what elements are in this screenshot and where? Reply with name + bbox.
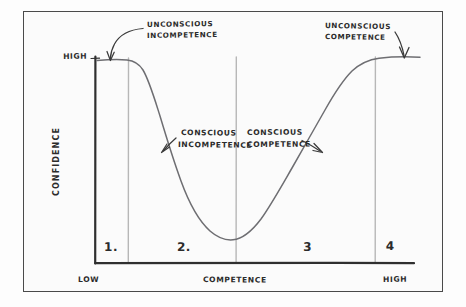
x-axis-label: COMPETENCE [203, 275, 267, 285]
conscious-incompetence-arrow [162, 138, 177, 153]
stage-number-3: 3 [303, 240, 312, 255]
x-axis-high-label: HIGH [383, 275, 407, 285]
diagram-canvas [0, 0, 466, 307]
unconscious-competence-arrow [395, 32, 409, 58]
stage-number-4: 4 [386, 239, 395, 254]
annotation-conscious-competence-line1: CONSCIOUS [247, 128, 303, 138]
annotation-unconscious-competence-line1: UNCONSCIOUS [325, 22, 391, 32]
annotation-unconscious-competence-line2: COMPETENCE [325, 33, 386, 43]
stage-number-2: 2. [177, 240, 191, 255]
diagram-screen: UNCONSCIOUS INCOMPETENCE CONSCIOUS INCOM… [0, 0, 466, 307]
annotation-conscious-competence-line2: COMPETENCE [247, 140, 311, 150]
stage-number-1: 1. [104, 240, 118, 255]
unconscious-incompetence-arrow [107, 29, 143, 61]
y-axis-label: CONFIDENCE [52, 127, 61, 196]
x-axis-low-label: LOW [78, 275, 99, 284]
annotation-unconscious-incompetence-line1: UNCONSCIOUS [147, 20, 213, 30]
annotation-conscious-incompetence-line2: INCOMPETENCE [178, 140, 252, 150]
annotation-conscious-incompetence-line1: CONSCIOUS [181, 128, 237, 138]
annotation-unconscious-incompetence-line2: INCOMPETENCE [147, 31, 218, 41]
y-axis-high-label: HIGH [63, 52, 87, 62]
